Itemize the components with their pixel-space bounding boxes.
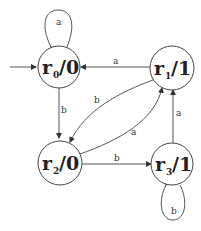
edge-label-r3-r3: b <box>171 206 177 216</box>
edge-r0-r0 <box>45 10 72 47</box>
edge-r1-r2 <box>70 80 153 142</box>
edge-label-r1-r2: b <box>94 95 100 105</box>
edge-label-r0-r2: b <box>61 105 67 115</box>
state-r1: r 1 /1 <box>150 46 194 90</box>
state-r2-output: /0 <box>59 152 79 174</box>
state-r0-name: r <box>42 56 53 78</box>
edge-label-r2-r3: b <box>114 153 120 163</box>
edge-r2-r1 <box>80 88 162 154</box>
edge-label-r0-r0: a <box>56 17 62 27</box>
edge-label-r1-r0: a <box>113 56 119 66</box>
state-r0-output: /0 <box>59 56 79 78</box>
state-r3-name: r <box>155 153 166 175</box>
state-diagram: a b a b a b a b r 0 /0 r 1 /1 r 2 /0 r 3… <box>0 0 201 231</box>
state-r0: r 0 /0 <box>38 46 80 88</box>
state-r2: r 2 /0 <box>38 141 82 185</box>
edge-label-r2-r1: a <box>131 127 137 137</box>
state-r1-name: r <box>154 57 165 79</box>
state-r2-name: r <box>42 152 53 174</box>
state-r1-output: /1 <box>171 57 191 79</box>
state-r3-output: /1 <box>172 153 192 175</box>
state-r3: r 3 /1 <box>151 143 193 185</box>
edge-label-r3-r1: a <box>176 108 182 118</box>
